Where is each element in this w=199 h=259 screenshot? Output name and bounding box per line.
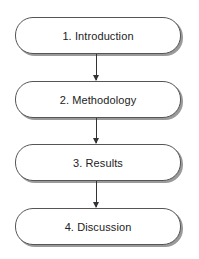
arrow-down-icon	[96, 118, 97, 143]
arrow-down-icon	[96, 181, 97, 207]
node-methodology: 2. Methodology	[15, 81, 181, 118]
node-label: 3. Results	[73, 157, 123, 169]
node-label: 1. Introduction	[62, 30, 133, 42]
node-introduction: 1. Introduction	[15, 17, 181, 54]
arrow-down-icon	[96, 54, 97, 80]
flowchart: 1. Introduction 2. Methodology 3. Result…	[0, 0, 199, 259]
node-results: 3. Results	[15, 144, 181, 181]
node-label: 4. Discussion	[65, 221, 132, 233]
node-label: 2. Methodology	[60, 94, 137, 106]
node-discussion: 4. Discussion	[15, 208, 181, 245]
